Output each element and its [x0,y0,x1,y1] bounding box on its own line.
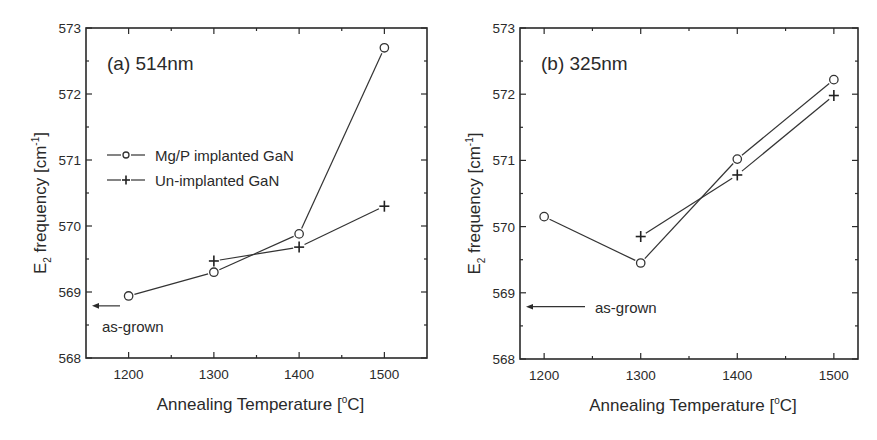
circle-marker-icon [380,44,388,52]
series-un-implanted [636,90,839,242]
legend: Mg/P implanted GaNUn-implanted GaN [107,147,294,189]
x-tick-label: 1200 [529,368,559,383]
y-tick-label: 570 [492,220,515,235]
circle-marker-icon [637,259,645,267]
y-tick-label: 572 [58,87,81,102]
arrow-left-icon [526,304,533,310]
axis-ticks [520,28,858,359]
circle-marker-icon [124,292,132,300]
plus-marker-icon [379,201,389,212]
y-tick-label: 573 [58,21,81,36]
plus-marker-icon [732,169,742,180]
x-tick-label: 1400 [722,368,752,383]
panel-b-325nm: 1200130014001500568569570571572573Anneal… [464,21,858,415]
plus-marker-icon [636,231,646,242]
figure: 1200130014001500568569570571572573Anneal… [0,0,877,440]
y-tick-label: 569 [492,286,515,301]
plus-marker-icon [209,255,219,266]
y-tick-label: 572 [492,87,515,102]
x-tick-label: 1500 [819,368,849,383]
legend-label: Un-implanted GaN [155,172,279,189]
panel-a-514nm: 1200130014001500568569570571572573Anneal… [30,21,427,414]
circle-marker-icon [733,155,741,163]
legend-entry: Un-implanted GaN [107,172,279,189]
y-axis-title: E2 frequency [cm-1] [30,132,53,274]
y-tick-labels: 568569570571572573 [58,21,81,366]
panel-label: (b) 325nm [541,53,628,74]
y-tick-label: 568 [492,352,515,367]
circle-marker-icon [540,212,548,220]
x-tick-labels: 1200130014001500 [529,368,849,383]
y-tick-label: 569 [58,285,81,300]
y-tick-labels: 568569570571572573 [492,21,515,367]
x-tick-label: 1300 [199,367,229,382]
x-tick-label: 1500 [369,367,399,382]
y-axis-title: E2 frequency [cm-1] [464,132,487,274]
axis-ticks [86,28,427,358]
x-tick-labels: 1200130014001500 [114,367,400,382]
x-axis-title: Annealing Temperature [oC] [157,394,364,414]
arrow-left-icon [92,303,99,309]
as-grown-label: as-grown [595,299,657,316]
panel-label: (a) 514nm [107,53,194,74]
as-grown-label: as-grown [102,318,164,335]
plus-marker-icon [829,90,839,101]
y-tick-label: 568 [58,351,81,366]
x-axis-title: Annealing Temperature [oC] [589,395,796,415]
as-grown-annotation: as-grown [526,299,657,316]
plot-frame [520,28,858,359]
legend-entry: Mg/P implanted GaN [107,147,294,164]
series-mg-p-implanted [540,75,838,267]
plot-frame [86,28,427,358]
legend-label: Mg/P implanted GaN [155,147,294,164]
y-tick-label: 571 [492,153,515,168]
as-grown-annotation: as-grown [92,303,164,335]
circle-marker-icon [210,268,218,276]
circle-marker-icon [830,75,838,83]
y-tick-label: 570 [58,219,81,234]
x-tick-label: 1300 [626,368,656,383]
y-tick-label: 573 [492,21,515,36]
circle-marker-icon [295,230,303,238]
x-tick-label: 1200 [114,367,144,382]
y-tick-label: 571 [58,153,81,168]
x-tick-label: 1400 [284,367,314,382]
plus-marker-icon [294,242,304,253]
circle-marker-icon [123,152,129,158]
